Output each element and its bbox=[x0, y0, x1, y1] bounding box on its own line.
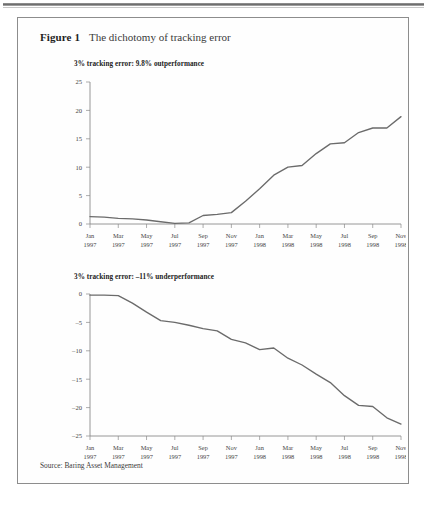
x-tick-label-month: Nov bbox=[395, 444, 406, 451]
x-tick-label-month: May bbox=[141, 444, 154, 451]
x-tick-label-year: 1998 bbox=[310, 241, 323, 248]
header-rule-thick bbox=[3, 3, 424, 6]
x-tick-label-year: 1997 bbox=[168, 241, 182, 248]
x-tick-label-year: 1998 bbox=[395, 453, 406, 460]
y-tick-label: –10 bbox=[71, 347, 83, 354]
x-tick-label-month: Jul bbox=[171, 444, 179, 451]
header-rule-thin bbox=[3, 7, 424, 8]
chart-underperformance-svg: 0–5–10–15–20–25Jan1997Mar1997May1997Jul1… bbox=[38, 286, 406, 471]
y-tick-label: 0 bbox=[79, 220, 83, 227]
x-tick-label-month: Nov bbox=[395, 232, 406, 239]
x-tick-label-year: 1998 bbox=[282, 453, 295, 460]
x-tick-label-year: 1997 bbox=[140, 241, 154, 248]
x-tick-label-year: 1997 bbox=[140, 453, 154, 460]
x-tick-label-year: 1998 bbox=[395, 241, 406, 248]
page-running-head bbox=[0, 0, 427, 14]
x-tick-label-year: 1998 bbox=[338, 453, 351, 460]
y-tick-label: –25 bbox=[71, 432, 83, 439]
x-tick-label-month: Nov bbox=[226, 444, 238, 451]
x-tick-label-month: May bbox=[141, 232, 154, 239]
x-tick-label-year: 1997 bbox=[197, 453, 211, 460]
figure-title-text: The dichotomy of tracking error bbox=[89, 31, 231, 43]
x-tick-label-month: Sep bbox=[368, 232, 378, 239]
x-tick-label-month: Jan bbox=[86, 232, 95, 239]
x-tick-label-year: 1998 bbox=[282, 241, 295, 248]
chart-caption-underperformance: 3% tracking error: –11% underperformance bbox=[74, 273, 214, 281]
x-tick-label-year: 1998 bbox=[338, 241, 351, 248]
x-tick-label-month: Mar bbox=[283, 232, 295, 239]
x-tick-label-year: 1997 bbox=[84, 453, 98, 460]
chart-underperformance: 0–5–10–15–20–25Jan1997Mar1997May1997Jul1… bbox=[38, 286, 406, 471]
x-tick-label-month: Nov bbox=[226, 232, 238, 239]
x-tick-label-month: Sep bbox=[198, 444, 208, 451]
x-tick-label-month: Sep bbox=[198, 232, 208, 239]
x-tick-label-year: 1998 bbox=[310, 453, 323, 460]
x-tick-label-month: Mar bbox=[283, 444, 295, 451]
y-tick-label: –5 bbox=[74, 319, 82, 326]
source-note: Source: Baring Asset Management bbox=[40, 461, 143, 470]
x-tick-label-month: Jul bbox=[341, 444, 349, 451]
x-tick-label-year: 1997 bbox=[112, 241, 126, 248]
x-tick-label-year: 1998 bbox=[253, 241, 266, 248]
x-tick-label-year: 1997 bbox=[225, 453, 239, 460]
x-tick-label-year: 1998 bbox=[366, 241, 379, 248]
y-tick-label: –20 bbox=[71, 404, 83, 411]
x-tick-label-year: 1998 bbox=[366, 453, 379, 460]
x-tick-label-month: Jul bbox=[171, 232, 179, 239]
x-tick-label-month: Jul bbox=[341, 232, 349, 239]
chart-outperformance: 0510152025Jan1997Mar1997May1997Jul1997Se… bbox=[38, 74, 406, 259]
x-tick-label-month: Mar bbox=[113, 232, 125, 239]
figure-container: Figure 1The dichotomy of tracking error … bbox=[17, 17, 409, 484]
x-tick-label-year: 1997 bbox=[225, 241, 239, 248]
x-tick-label-month: Jan bbox=[255, 444, 264, 451]
x-tick-label-month: May bbox=[310, 444, 323, 451]
chart-outperformance-svg: 0510152025Jan1997Mar1997May1997Jul1997Se… bbox=[38, 74, 406, 259]
y-tick-label: –15 bbox=[71, 376, 83, 383]
x-tick-label-year: 1997 bbox=[168, 453, 182, 460]
chart-caption-outperformance: 3% tracking error: 9.8% outperformance bbox=[74, 60, 204, 68]
x-tick-label-month: Jan bbox=[86, 444, 95, 451]
data-series-line bbox=[90, 295, 401, 424]
x-tick-label-year: 1997 bbox=[197, 241, 211, 248]
y-tick-label: 0 bbox=[79, 290, 83, 297]
x-tick-label-year: 1998 bbox=[253, 453, 266, 460]
y-tick-label: 25 bbox=[75, 78, 82, 85]
data-series-line bbox=[90, 117, 401, 224]
figure-label: Figure 1 bbox=[40, 31, 80, 43]
y-tick-label: 10 bbox=[75, 164, 82, 171]
x-tick-label-year: 1997 bbox=[84, 241, 98, 248]
y-tick-label: 5 bbox=[79, 192, 83, 199]
x-tick-label-month: Mar bbox=[113, 444, 125, 451]
y-tick-label: 20 bbox=[75, 107, 82, 114]
x-tick-label-month: Jan bbox=[255, 232, 264, 239]
x-tick-label-month: Sep bbox=[368, 444, 378, 451]
x-tick-label-month: May bbox=[310, 232, 323, 239]
y-tick-label: 15 bbox=[75, 135, 82, 142]
figure-title: Figure 1The dichotomy of tracking error bbox=[40, 31, 231, 43]
x-tick-label-year: 1997 bbox=[112, 453, 126, 460]
